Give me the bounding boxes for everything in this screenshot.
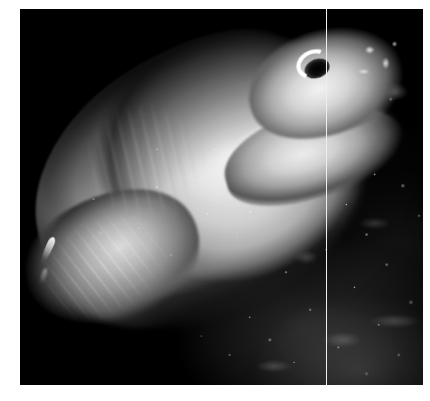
screenshot-root [0,0,430,401]
film-grain [20,9,423,385]
photograph [20,9,423,385]
scan-line-artifact [326,9,327,385]
